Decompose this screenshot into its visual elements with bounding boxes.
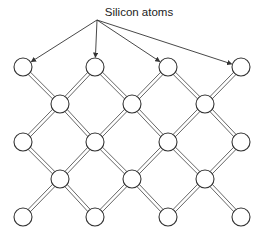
silicon-atom [14,133,32,151]
silicon-atom [232,208,250,226]
silicon-atom [196,170,214,188]
pointer-arrow [95,20,97,57]
pointer-arrow [97,20,231,64]
silicon-atom [14,58,32,76]
lattice-drawing [0,0,264,240]
silicon-atom [86,133,104,151]
silicon-lattice-diagram: Silicon atoms [0,0,264,240]
pointer-arrow [31,20,97,62]
silicon-atom [86,58,104,76]
silicon-atom [159,58,177,76]
silicon-atom [196,95,214,113]
silicon-atom [86,208,104,226]
silicon-atom [123,170,141,188]
silicon-atom [123,95,141,113]
silicon-atom [51,95,69,113]
silicon-atom [14,208,32,226]
silicon-atom [232,133,250,151]
pointer-arrow [97,20,160,61]
silicon-atom [159,208,177,226]
silicon-atom [51,170,69,188]
silicon-atom [159,133,177,151]
silicon-atom [232,58,250,76]
